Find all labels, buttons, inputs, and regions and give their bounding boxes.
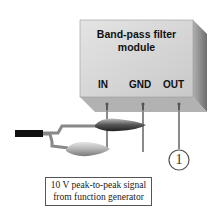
marker-number: 1 (169, 150, 189, 170)
diagram: Band-pass filter module IN GND OUT 1 10 … (0, 0, 224, 213)
coax-cable (15, 130, 43, 137)
caption-line2: from function generator (46, 191, 151, 203)
terminal-out-label: OUT (163, 79, 184, 90)
terminal-in-label: IN (98, 79, 108, 90)
lower-alligator-clip (66, 142, 110, 157)
caption-line1: 10 V peak-to-peak signal (46, 179, 151, 191)
module-title-line2: module (80, 41, 193, 54)
module-title: Band-pass filter module (80, 28, 193, 54)
module-title-line1: Band-pass filter (80, 28, 193, 41)
terminal-gnd-label: GND (129, 79, 151, 90)
caption-box: 10 V peak-to-peak signal from function g… (45, 177, 152, 206)
upper-alligator-clip (95, 119, 146, 132)
